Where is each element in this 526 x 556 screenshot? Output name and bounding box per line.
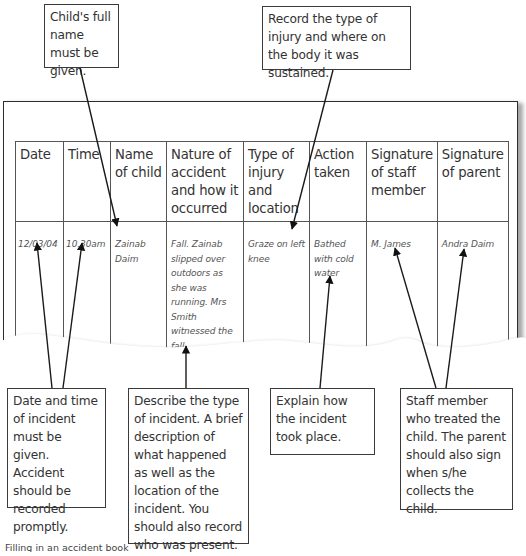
header-time: Time (64, 142, 111, 222)
callout-date-time-text: Date and time of incident must be given.… (13, 394, 98, 534)
callout-child-name-text: Child's full name must be given. (50, 10, 111, 78)
header-nature: Nature of accident and how it occurred (167, 142, 244, 222)
callout-describe: Describe the type of incident. A brief d… (128, 388, 249, 544)
callout-injury-text: Record the type of injury and where on t… (268, 12, 386, 80)
callout-injury: Record the type of injury and where on t… (262, 6, 411, 70)
header-parent-signature: Signature of parent (437, 142, 508, 222)
header-date: Date (16, 142, 64, 222)
figure-caption: Filling in an accident book (5, 542, 129, 556)
callout-date-time: Date and time of incident must be given.… (7, 388, 106, 508)
torn-edge (0, 326, 526, 370)
header-name: Name of child (111, 142, 167, 222)
callout-child-name: Child's full name must be given. (44, 4, 119, 68)
callout-staff: Staff member who treated the child. The … (400, 388, 513, 510)
header-staff-signature: Signature of staff member (367, 142, 438, 222)
header-injury: Type of injury and location (244, 142, 310, 222)
table-header-row: Date Time Name of child Nature of accide… (16, 142, 509, 222)
callout-staff-text: Staff member who treated the child. The … (406, 394, 506, 516)
callout-explain: Explain how the incident took place. (270, 388, 375, 455)
header-action: Action taken (310, 142, 367, 222)
callout-describe-text: Describe the type of incident. A brief d… (134, 394, 242, 552)
callout-explain-text: Explain how the incident took place. (276, 394, 347, 444)
